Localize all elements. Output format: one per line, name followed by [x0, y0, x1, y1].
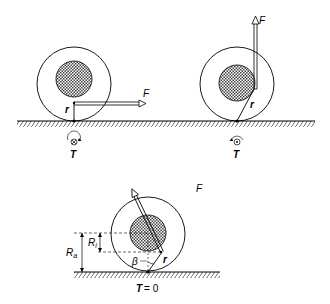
force-label: F	[143, 88, 150, 99]
torque-zero-label: T= 0	[136, 283, 159, 294]
diagram-canvas: F r T F r	[0, 0, 330, 304]
contact-point	[72, 119, 75, 122]
ground-hatch	[17, 121, 315, 127]
inner-radius-dimension	[98, 233, 102, 252]
inner-hub	[219, 65, 255, 101]
outer-radius-label: Ra	[66, 247, 77, 259]
torque-into-page-icon	[68, 131, 82, 145]
contact-point	[235, 119, 238, 122]
force-label: F	[196, 183, 203, 194]
radius-label: r	[163, 254, 168, 265]
panel-wheel-horizontal-force: F r T	[17, 47, 315, 160]
force-arrow	[74, 100, 146, 107]
torque-label: T	[70, 149, 77, 160]
radius-label: r	[250, 99, 255, 110]
torque-out-of-page-icon	[230, 136, 244, 145]
inner-hub	[56, 61, 92, 97]
force-label: F	[259, 15, 266, 26]
panel-wheel-vertical-force: F r T	[200, 15, 274, 160]
outer-radius-dimension	[80, 233, 84, 272]
radius-label: r	[65, 104, 70, 115]
beta-angle-arc	[148, 262, 154, 264]
inner-radius-label: Ri	[88, 237, 97, 249]
contact-point	[146, 270, 149, 273]
panel-wheel-angled-force: Ra Ri β F r T= 0	[66, 183, 220, 294]
torque-label: T	[233, 149, 240, 160]
beta-label: β	[131, 256, 138, 267]
